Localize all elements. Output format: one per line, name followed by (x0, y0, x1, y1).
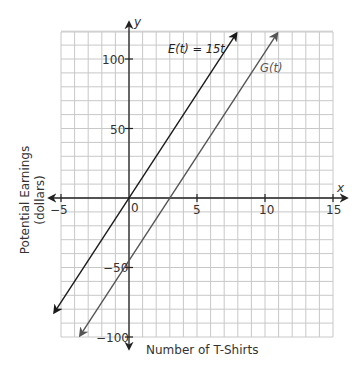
y-tick-label-neg100: −100 (96, 331, 129, 345)
origin-label: 0 (131, 201, 139, 215)
x-tick-label-15: 15 (326, 203, 341, 217)
grid (61, 31, 333, 337)
y-tick-label-100: 100 (102, 53, 125, 67)
x-axis-name: x (336, 181, 345, 195)
x-tick-label-5: 5 (193, 203, 201, 217)
series-line-e (54, 33, 236, 312)
y-tick-label-50: 50 (110, 123, 125, 137)
g-series-label: G(t) (260, 61, 282, 75)
labels: y x 0 −5 5 10 15 100 50 −50 −100 E(t) = … (18, 15, 345, 357)
y-axis-title-line2: (dollars) (33, 175, 47, 225)
x-tick-label-neg5: −5 (50, 203, 68, 217)
y-axis-name: y (133, 15, 142, 29)
y-axis-title-line1: Potential Earnings (18, 146, 32, 254)
x-axis-title: Number of T-Shirts (146, 343, 258, 357)
chart: y x 0 −5 5 10 15 100 50 −50 −100 E(t) = … (0, 0, 361, 372)
axes (49, 22, 347, 349)
x-tick-label-10: 10 (259, 203, 274, 217)
e-series-label: E(t) = 15t (168, 42, 225, 56)
y-tick-label-neg50: −50 (103, 261, 128, 275)
